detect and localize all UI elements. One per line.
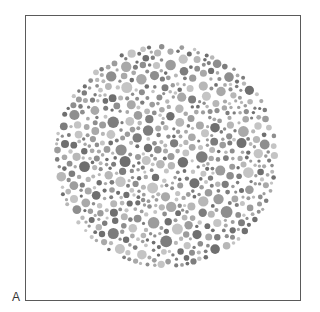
plate-dot (163, 143, 167, 147)
plate-dot (105, 171, 113, 179)
plate-dot (159, 140, 163, 144)
plate-dot (135, 200, 140, 205)
plate-dot (210, 184, 214, 188)
plate-dot (258, 107, 261, 110)
plate-dot (168, 162, 175, 169)
plate-dot (161, 192, 170, 201)
plate-dot (166, 75, 171, 80)
plate-dot (115, 244, 125, 254)
plate-dot (135, 60, 138, 63)
plate-dot (121, 223, 127, 229)
plate-dot (161, 121, 165, 125)
plate-dot (116, 191, 120, 195)
plate-dot (61, 186, 64, 189)
plate-dot (232, 67, 236, 71)
plate-dot (134, 215, 142, 223)
plate-dot (260, 177, 264, 181)
plate-dot (102, 221, 107, 226)
plate-dot (175, 210, 181, 216)
plate-dot (210, 138, 218, 146)
plate-dot (224, 219, 227, 222)
plate-dot (86, 177, 91, 182)
plate-dot (131, 93, 134, 96)
plate-dot (103, 98, 109, 104)
plate-dot (144, 175, 148, 179)
plate-dot (239, 188, 244, 193)
plate-dot (78, 104, 83, 109)
plate-dot (226, 133, 232, 139)
plate-dot (91, 161, 95, 165)
plate-dot (184, 242, 191, 249)
plate-dot (235, 212, 241, 218)
plate-dot (68, 149, 72, 153)
plate-dot (150, 71, 159, 80)
plate-dot (119, 110, 122, 113)
plate-dot (257, 169, 264, 176)
plate-dot (215, 182, 220, 187)
plate-dot (154, 49, 161, 56)
plate-dot (136, 106, 140, 110)
plate-dot (259, 99, 263, 103)
plate-dot (270, 181, 273, 184)
plate-dot (246, 150, 250, 154)
plate-dot (201, 129, 209, 137)
plate-dot (95, 143, 100, 148)
plate-dot (152, 111, 157, 116)
plate-dot (72, 94, 76, 98)
plate-dot (202, 164, 205, 167)
plate-dot (175, 105, 183, 113)
plate-dot (105, 158, 109, 162)
plate-dot (251, 129, 255, 133)
plate-dot (119, 128, 123, 132)
plate-dot (88, 78, 93, 83)
plate-dot (238, 126, 249, 137)
plate-dot (264, 198, 269, 203)
plate-dot (124, 57, 127, 60)
plate-dot (95, 84, 99, 88)
plate-dot (94, 214, 97, 217)
plate-dot (137, 250, 147, 260)
plate-dot (121, 62, 131, 72)
plate-dot (254, 122, 261, 129)
plate-dot (152, 258, 157, 263)
plate-dot (156, 133, 161, 138)
plate-dot (147, 256, 151, 260)
plate-dot (238, 96, 242, 100)
plate-dot (79, 161, 90, 172)
plate-dot (162, 117, 165, 120)
plate-dot (101, 79, 105, 83)
plate-dot (144, 212, 148, 216)
plate-dot (91, 175, 95, 179)
plate-dot (145, 115, 153, 123)
plate-dot (222, 105, 227, 110)
plate-dot (108, 167, 111, 170)
plate-dot (270, 170, 274, 174)
plate-dot (191, 127, 194, 130)
plate-dot (182, 150, 189, 157)
ishihara-plate (0, 0, 320, 312)
plate-dot (175, 258, 178, 261)
plate-dot (187, 52, 192, 57)
plate-dot (242, 81, 246, 85)
plate-dot (160, 69, 164, 73)
plate-dot (115, 177, 125, 187)
plate-dot (160, 236, 172, 248)
plate-dot (73, 205, 82, 214)
plate-dot (179, 55, 188, 64)
plate-dot (105, 83, 112, 90)
plate-dot (130, 169, 134, 173)
plate-dot (62, 112, 67, 117)
plate-dot (188, 133, 196, 141)
plate-dot (253, 107, 256, 110)
plate-dot (194, 56, 201, 63)
plate-dot (179, 144, 183, 148)
plate-dot (163, 156, 167, 160)
plate-dot (82, 156, 85, 159)
plate-dot (104, 115, 108, 119)
plate-dot (217, 189, 221, 193)
plate-dot (236, 74, 240, 78)
plate-dot (125, 132, 130, 137)
plate-dot (183, 231, 189, 237)
plate-dot (55, 142, 58, 145)
plate-dot (216, 157, 221, 162)
